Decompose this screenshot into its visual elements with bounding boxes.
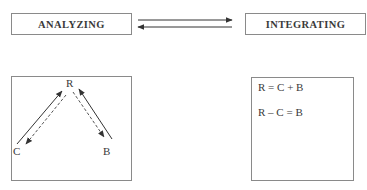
analyzing-box: ANALYZING — [11, 13, 132, 35]
analysis-diagram-box — [11, 76, 132, 181]
integrating-box: INTEGRATING — [245, 13, 366, 35]
node-r-label: R — [66, 78, 73, 89]
integrating-label: INTEGRATING — [266, 19, 345, 30]
equation-difference: R – C = B — [258, 106, 303, 118]
node-c-label: C — [13, 146, 20, 157]
analyzing-label: ANALYZING — [38, 19, 105, 30]
node-b-label: B — [103, 146, 110, 157]
integration-equations-box: R = C + B R – C = B — [251, 77, 354, 181]
equation-sum: R = C + B — [258, 81, 303, 93]
